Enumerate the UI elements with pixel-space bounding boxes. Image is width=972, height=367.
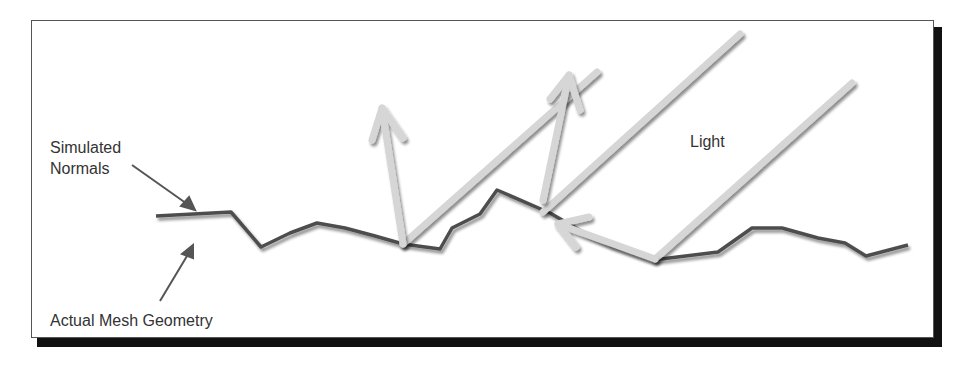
simulated-normals-label-line2: Normals [50, 158, 121, 179]
simulated-normals-pointer-icon [132, 165, 195, 210]
normal-arrow-left [372, 108, 403, 244]
light-ray-3 [655, 83, 852, 259]
light-rays [403, 34, 852, 259]
light-ray-2 [543, 34, 740, 212]
label-pointers [132, 165, 195, 301]
simulated-normals-line [156, 190, 908, 260]
simulated-normals-label: Simulated Normals [50, 137, 121, 179]
simulated-normals-label-line1: Simulated [50, 137, 121, 158]
actual-mesh-geometry-label: Actual Mesh Geometry [50, 310, 213, 331]
actual-mesh-pointer-icon [160, 245, 193, 301]
light-label: Light [690, 131, 725, 152]
